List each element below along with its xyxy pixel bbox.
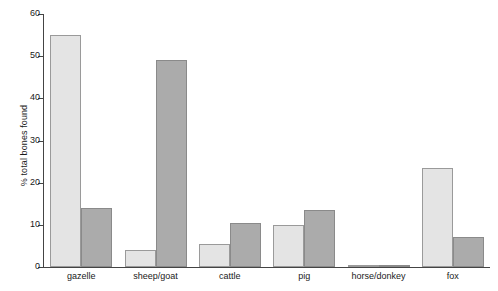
x-category-label: cattle bbox=[193, 270, 267, 282]
x-category-label: sheep/goat bbox=[118, 270, 192, 282]
bar-gazelle-dark bbox=[81, 208, 112, 267]
y-tick-label: 30 bbox=[30, 135, 40, 146]
bar-chart: % total bones found 0102030405060 gazell… bbox=[0, 0, 498, 291]
x-category-label: fox bbox=[416, 270, 490, 282]
plot-area: 0102030405060 bbox=[43, 14, 490, 267]
y-tick-label: 0 bbox=[35, 261, 40, 272]
bar-pig-dark bbox=[304, 210, 335, 267]
bar-group bbox=[422, 14, 484, 267]
bar-group bbox=[50, 14, 112, 267]
bar-sheep-goat-dark bbox=[156, 60, 187, 267]
x-axis-line bbox=[43, 267, 490, 268]
bar-fox-light bbox=[422, 168, 453, 267]
y-tick-label: 60 bbox=[30, 8, 40, 19]
bar-pig-light bbox=[273, 225, 304, 267]
bar-cattle-dark bbox=[230, 223, 261, 267]
bar-group bbox=[199, 14, 261, 267]
bar-group bbox=[273, 14, 335, 267]
x-category-label: pig bbox=[267, 270, 341, 282]
y-tick-label: 20 bbox=[30, 177, 40, 188]
bars-layer bbox=[44, 14, 490, 267]
bar-group bbox=[125, 14, 187, 267]
x-axis-category-labels: gazellesheep/goatcattlepighorse/donkeyfo… bbox=[44, 270, 490, 286]
bar-group bbox=[348, 14, 410, 267]
x-category-label: gazelle bbox=[44, 270, 118, 282]
y-tick-label: 40 bbox=[30, 92, 40, 103]
bar-sheep-goat-light bbox=[125, 250, 156, 267]
bar-fox-dark bbox=[453, 237, 484, 267]
bar-cattle-light bbox=[199, 244, 230, 267]
y-axis-title: % total bones found bbox=[16, 0, 32, 291]
bar-horse-donkey-light bbox=[348, 265, 379, 267]
y-tick-label: 10 bbox=[30, 219, 40, 230]
bar-horse-donkey-dark bbox=[379, 265, 410, 267]
bar-gazelle-light bbox=[50, 35, 81, 267]
y-tick-label: 50 bbox=[30, 50, 40, 61]
x-category-label: horse/donkey bbox=[341, 270, 415, 282]
